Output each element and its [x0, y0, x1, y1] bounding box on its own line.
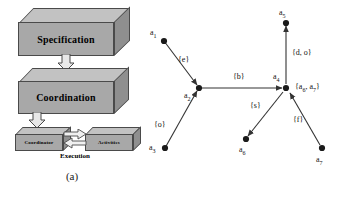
figure-container: Specification Coordination Coordinator A… — [0, 0, 355, 197]
panel-b-graph: a1 a2 a3 a4 a5 a6 a7 {e} {o} {b} {d, o} … — [140, 0, 355, 197]
block-coordination: Coordination — [18, 68, 130, 114]
node-label-a1: a1 — [150, 28, 157, 39]
edge-label-e: {e} — [178, 55, 189, 64]
execution-label: Execution — [30, 152, 120, 160]
node-a5 — [283, 20, 289, 26]
node-label-a2: a2 — [184, 91, 191, 102]
edge-label-o: {o} — [154, 120, 166, 129]
block-coordination-label: Coordination — [18, 81, 114, 114]
edge-a4-a6 — [248, 92, 283, 136]
arrow-coordinator-activities-bidirectional — [62, 129, 90, 151]
node-a3 — [162, 145, 168, 151]
node-label-a4: a4 — [273, 72, 280, 83]
node-a2 — [196, 85, 202, 91]
caption-panel-a: (a) — [52, 170, 92, 182]
block-specification: Specification — [18, 8, 130, 56]
node-label-a7: a7 — [316, 155, 323, 166]
edge-label-b: {b} — [233, 72, 245, 81]
graph-edges-svg — [140, 0, 355, 197]
node-a6 — [243, 136, 249, 142]
edge-a3-a2 — [165, 91, 197, 148]
edge-label-s: {s} — [250, 101, 261, 110]
block-specification-label: Specification — [18, 22, 114, 56]
edge-label-f: {f} — [293, 115, 303, 124]
block-activities: Activities — [85, 127, 141, 151]
block-activities-label: Activities — [85, 134, 133, 151]
annotation-set-a4: {a6, a7} — [295, 82, 320, 93]
node-a4 — [283, 85, 289, 91]
block-coordinator-label: Coordinator — [15, 134, 63, 151]
node-label-a6: a6 — [239, 145, 246, 156]
node-label-a3: a3 — [149, 143, 156, 154]
node-label-a5: a5 — [279, 8, 286, 19]
node-a7 — [319, 145, 325, 151]
edge-label-d-o: {d, o} — [292, 48, 312, 57]
node-a1 — [161, 38, 167, 44]
